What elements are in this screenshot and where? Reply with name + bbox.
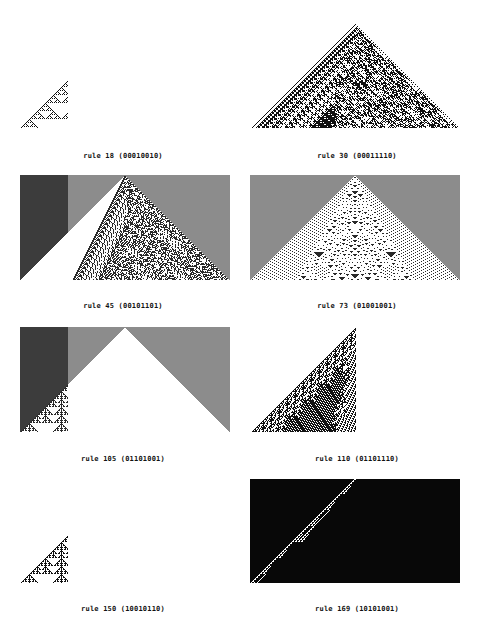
caption-rule-45: rule 45 (00101101) xyxy=(83,302,162,310)
ca-panel-rule-73 xyxy=(250,175,460,280)
caption-rule-110: rule 110 (01101110) xyxy=(315,455,399,463)
caption-rule-150: rule 150 (10010110) xyxy=(81,605,165,613)
caption-rule-18: rule 18 (00010010) xyxy=(83,152,162,160)
caption-rule-30: rule 30 (00011110) xyxy=(317,152,396,160)
ca-panel-rule-45 xyxy=(20,175,230,280)
ca-panel-rule-169 xyxy=(250,478,460,583)
caption-rule-73: rule 73 (01001001) xyxy=(317,302,396,310)
ca-panel-rule-30 xyxy=(252,23,460,128)
ca-panel-rule-150 xyxy=(20,478,230,583)
ca-panel-rule-18 xyxy=(20,23,230,128)
caption-rule-169: rule 169 (10101001) xyxy=(315,605,399,613)
caption-rule-105: rule 105 (01101001) xyxy=(81,455,165,463)
ca-panel-rule-110 xyxy=(252,327,460,432)
ca-panel-rule-105 xyxy=(20,327,230,432)
